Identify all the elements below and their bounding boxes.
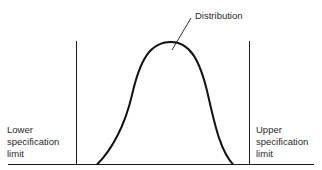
upper-limit-label-line-3: limit [256, 148, 273, 159]
lower-limit-label-line-1: Lower [7, 124, 33, 135]
distribution-label: Distribution [195, 10, 243, 21]
lower-limit-label-line-2: specification [7, 136, 59, 147]
distribution-curve [97, 42, 233, 165]
specification-limits-diagram: Distribution Lower specification limit U… [0, 0, 322, 170]
lower-limit-label-line-3: limit [7, 148, 24, 159]
upper-limit-label-line-1: Upper [256, 124, 282, 135]
upper-limit-label-line-2: specification [256, 136, 308, 147]
